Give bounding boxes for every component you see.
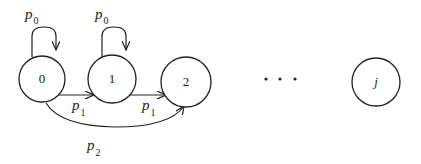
self-loop-1: [102, 27, 126, 57]
state-2-label: 2: [183, 74, 190, 89]
state-0-label: 0: [39, 71, 46, 86]
label-p1-01: p1: [71, 97, 86, 118]
edge-0-2: [46, 103, 184, 127]
state-1-label: 1: [109, 71, 116, 86]
ellipsis: [264, 77, 296, 80]
label-p0-loop0: p0: [24, 6, 39, 26]
label-p1-12: p1: [141, 97, 156, 118]
label-p2-02: p2: [86, 137, 101, 158]
state-diagram: 0 1 2 j p0 p0 p1 p1 p2: [0, 0, 421, 164]
self-loop-0: [32, 27, 56, 57]
label-p0-loop1: p0: [94, 6, 109, 26]
